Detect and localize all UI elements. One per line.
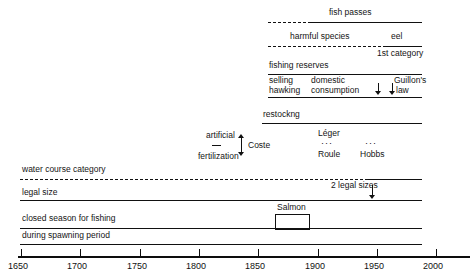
dash-between-artificial-fertilization bbox=[212, 145, 221, 146]
axis-tick-label-1650: 1650 bbox=[8, 261, 28, 271]
dots-leger-roule: ··· bbox=[321, 138, 333, 148]
axis-tick-label-1850: 1850 bbox=[245, 261, 265, 271]
arrow-2-legal-sizes-icon bbox=[369, 185, 376, 199]
band-line-legal-size bbox=[20, 200, 422, 201]
axis-tick-1800 bbox=[199, 249, 200, 257]
timeline-figure: fish passes harmful species eel 1st cate… bbox=[0, 0, 470, 276]
marker-label-hobbs: Hobbs bbox=[360, 150, 385, 160]
axis-tick-1750 bbox=[140, 249, 141, 257]
box-label-salmon: Salmon bbox=[277, 203, 306, 213]
band-label-hawking: hawking bbox=[269, 86, 300, 96]
timeline-axis bbox=[18, 256, 470, 258]
band-label-artificial: artificial bbox=[206, 131, 235, 141]
band-label-closed-season: closed season for fishing bbox=[22, 214, 116, 224]
band-line-water-course-dashed bbox=[20, 179, 368, 180]
axis-tick-label-1800: 1800 bbox=[186, 261, 206, 271]
axis-tick-1950 bbox=[377, 249, 378, 257]
band-label-consumption: consumption bbox=[311, 86, 359, 96]
band-line-eel-solid bbox=[386, 46, 422, 47]
band-line-selling-hawking bbox=[268, 97, 422, 98]
axis-tick-1850 bbox=[258, 249, 259, 257]
axis-tick-1650 bbox=[21, 249, 22, 257]
band-line-closed-season bbox=[20, 228, 422, 229]
band-label-legal-size: legal size bbox=[22, 188, 57, 198]
axis-tick-label-2000: 2000 bbox=[423, 261, 443, 271]
axis-tick-1700 bbox=[80, 249, 81, 257]
band-label-first-category: 1st category bbox=[377, 49, 423, 59]
band-line-harmful-species-dashed bbox=[268, 46, 386, 47]
arrow-domestic-consumption-icon bbox=[375, 83, 382, 95]
band-label-fish-passes: fish passes bbox=[329, 8, 372, 18]
axis-tick-label-1750: 1750 bbox=[127, 261, 147, 271]
band-line-fish-passes-solid bbox=[311, 22, 422, 23]
axis-tick-label-1950: 1950 bbox=[364, 261, 384, 271]
band-label-harmful-species: harmful species bbox=[290, 32, 350, 42]
band-line-spawning-period bbox=[20, 244, 422, 245]
axis-tick-1900 bbox=[318, 249, 319, 257]
axis-tick-label-1900: 1900 bbox=[305, 261, 325, 271]
band-label-water-course-category: water course category bbox=[22, 165, 106, 175]
double-arrow-coste-icon bbox=[237, 134, 246, 156]
band-label-fertilization: fertilization bbox=[198, 152, 239, 162]
band-line-fish-passes-dashed bbox=[268, 22, 311, 23]
band-line-restocking bbox=[262, 123, 422, 124]
marker-label-roule: Roule bbox=[318, 150, 340, 160]
axis-tick-2000 bbox=[436, 249, 437, 257]
band-label-law: law bbox=[396, 86, 409, 96]
band-label-fishing-reserves: fishing reserves bbox=[269, 61, 329, 71]
band-label-spawning-period: during spawning period bbox=[22, 231, 110, 241]
axis-tick-label-1700: 1700 bbox=[67, 261, 87, 271]
arrow-guillons-law-icon bbox=[389, 83, 396, 95]
band-label-eel: eel bbox=[391, 32, 402, 42]
band-label-restocking: restockng bbox=[263, 110, 300, 120]
dots-hobbs: ··· bbox=[365, 138, 377, 148]
marker-label-coste: Coste bbox=[248, 141, 270, 151]
